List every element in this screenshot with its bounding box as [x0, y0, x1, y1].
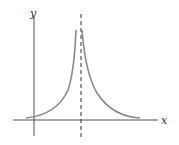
chart-figure: y x [0, 0, 179, 145]
chart-svg: y x [0, 0, 179, 145]
y-axis-label: y [29, 7, 37, 20]
curve-right-branch [82, 30, 140, 118]
x-axis-label: x [161, 114, 168, 127]
